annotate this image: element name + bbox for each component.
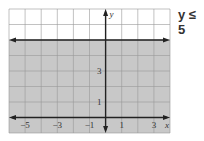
x-tick-label: 3 (152, 120, 157, 130)
x-axis-label: x (164, 120, 169, 130)
inequality-label: y ≤ 5 (178, 7, 204, 37)
y-tick-label: 3 (97, 66, 102, 76)
x-tick-label: 1 (119, 120, 124, 130)
x-tick-label: −5 (20, 120, 30, 130)
y-tick-label: 1 (97, 97, 102, 107)
x-tick-label: −3 (53, 120, 63, 130)
x-tick-label: −1 (85, 120, 95, 130)
inequality-graph: −5−3−11313xy (0, 0, 204, 141)
y-axis-label: y (109, 9, 114, 19)
